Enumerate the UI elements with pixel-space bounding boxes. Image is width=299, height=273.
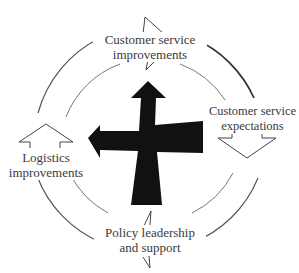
node-top-label: Customer service improvements xyxy=(93,32,207,62)
four-way-cross-arrow-icon xyxy=(88,81,203,205)
right-down-arrow-icon xyxy=(218,132,276,158)
bottom-down-chevron-icon xyxy=(143,256,150,268)
node-bottom-label: Policy leadership and support xyxy=(94,225,206,255)
cycle-diagram: Customer service improvements Customer s… xyxy=(0,0,299,273)
left-up-arrow-icon xyxy=(19,124,73,148)
node-left-label: Logistics improvements xyxy=(6,150,86,180)
node-right-label: Customer service expectations xyxy=(206,104,299,134)
